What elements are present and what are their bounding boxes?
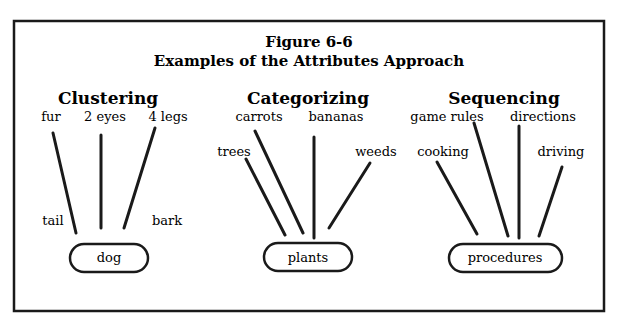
connector-line [329,163,370,228]
connector-line [437,162,477,234]
center-node-label: plants [288,250,329,265]
attribute-label: bananas [309,109,364,124]
group-sequencing: Sequencing game rules directions cooking… [410,88,584,272]
attribute-label: driving [538,144,585,159]
group-heading: Categorizing [247,88,369,108]
attribute-label: directions [510,109,576,124]
group-heading: Clustering [58,88,158,108]
group-clustering: Clustering fur 2 eyes 4 legs tail bark d… [41,88,187,272]
connector-line [255,131,303,233]
center-node-label: procedures [468,250,543,265]
attribute-label: bark [152,213,182,228]
connector-line [246,159,285,235]
attribute-label: carrots [235,109,282,124]
center-node-label: dog [97,250,121,265]
group-heading: Sequencing [448,88,560,108]
figure-title: Examples of the Attributes Approach [154,52,464,70]
figure-number: Figure 6-6 [265,33,353,51]
attribute-label: game rules [410,109,483,124]
attribute-label: tail [42,213,63,228]
connector-line [124,128,155,228]
attribute-label: 2 eyes [84,109,126,124]
attributes-diagram: Figure 6-6 Examples of the Attributes Ap… [0,0,618,330]
attribute-label: cooking [417,144,469,159]
connector-line [539,167,562,236]
attribute-label: 4 legs [148,109,187,124]
attribute-label: fur [41,109,61,124]
attribute-label: weeds [355,144,397,159]
attribute-label: trees [217,144,251,159]
group-categorizing: Categorizing carrots bananas trees weeds… [217,88,397,271]
connector-line [474,123,508,236]
